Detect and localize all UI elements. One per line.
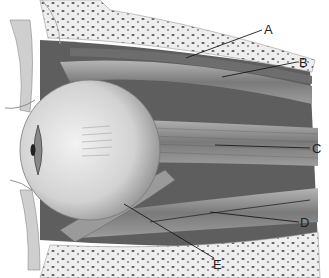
label-b: B	[299, 56, 308, 69]
label-d: D	[300, 216, 309, 229]
eye-muscle-diagram	[0, 0, 329, 278]
label-a: A	[264, 23, 273, 36]
label-c: C	[312, 142, 321, 155]
eyeball	[20, 80, 160, 220]
pupil	[31, 144, 36, 156]
label-e: E	[213, 258, 222, 271]
